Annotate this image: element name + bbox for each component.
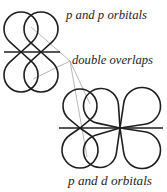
orbital-overlap-figure: p and p orbitals double overlaps p and d… [0,0,167,192]
label-double-overlaps: double overlaps [72,53,153,67]
label-p-and-p-orbitals: p and p orbitals [65,8,147,22]
background [0,0,167,192]
label-p-and-d-orbitals: p and d orbitals [67,174,152,188]
